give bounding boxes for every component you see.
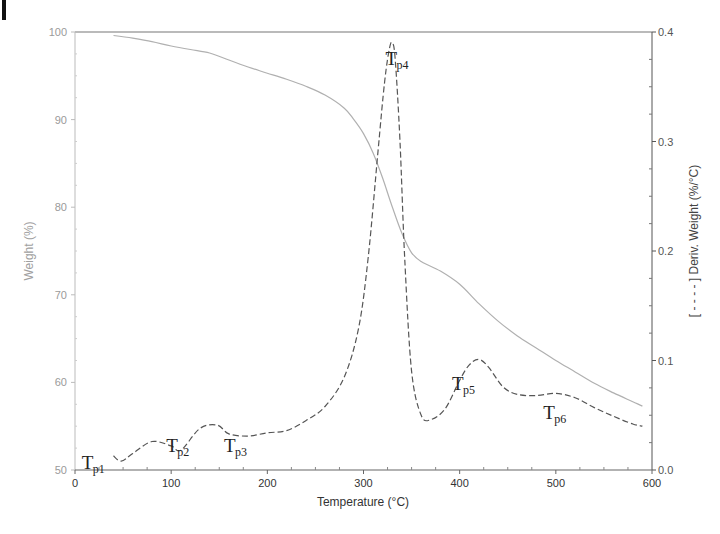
right-tick-label: 0.4 [658, 26, 673, 38]
peak-label-subscript: p1 [93, 462, 105, 476]
x-tick-label: 0 [72, 477, 78, 489]
peak-annotations: Tp1Tp2Tp3Tp4Tp5Tp6 [82, 48, 567, 476]
right-tick-label: 0.1 [658, 355, 673, 367]
peak-label-subscript: p2 [177, 445, 189, 459]
left-y-axis-title: Weight (%) [22, 221, 36, 280]
x-tick-label: 300 [354, 477, 372, 489]
x-tick-label: 200 [258, 477, 276, 489]
peak-label-tp3: Tp3 [224, 435, 247, 459]
peak-label-tp2: Tp2 [166, 435, 189, 459]
weight-curve [114, 36, 643, 407]
tga-dtg-chart: 5060708090100 0.00.10.20.30.4 0100200300… [0, 0, 720, 534]
x-axis-title: Temperature (°C) [317, 495, 409, 509]
left-tick-label: 60 [55, 376, 67, 388]
peak-label-tp4: Tp4 [386, 48, 409, 72]
x-tick-label: 500 [547, 477, 565, 489]
left-tick-label: 50 [55, 464, 67, 476]
right-tick-label: 0.2 [658, 245, 673, 257]
x-tick-label: 600 [643, 477, 661, 489]
left-tick-label: 80 [55, 201, 67, 213]
peak-label-subscript: p6 [554, 412, 566, 426]
peak-label-subscript: p3 [235, 445, 247, 459]
left-tick-label: 70 [55, 289, 67, 301]
x-axis: 0100200300400500600 [72, 467, 661, 489]
derivative-weight-curve [114, 42, 643, 461]
peak-label-subscript: p4 [397, 58, 409, 72]
peak-label-tp1: Tp1 [82, 452, 105, 476]
right-y-axis-title: [ - - - - ] Deriv. Weight (%/°C) [687, 165, 701, 317]
right-tick-label: 0.0 [658, 464, 673, 476]
peak-label-tp6: Tp6 [543, 402, 566, 426]
right-tick-label: 0.3 [658, 136, 673, 148]
x-tick-label: 100 [162, 477, 180, 489]
peak-label-tp5: Tp5 [452, 373, 475, 397]
x-tick-label: 400 [450, 477, 468, 489]
left-y-axis: 5060708090100 [49, 26, 77, 476]
peak-label-subscript: p5 [463, 383, 475, 397]
left-tick-label: 90 [55, 114, 67, 126]
left-tick-label: 100 [49, 26, 67, 38]
right-y-axis: 0.00.10.20.30.4 [649, 26, 673, 476]
